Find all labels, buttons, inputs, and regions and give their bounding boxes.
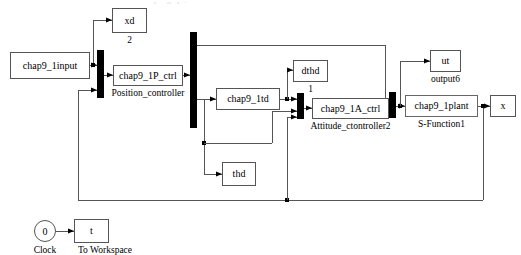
block-ut-scope[interactable]: ut <box>430 50 461 72</box>
block-x-scope[interactable]: x <box>490 95 516 117</box>
wire-junction <box>481 104 485 108</box>
mux-bar-attitude-input[interactable] <box>297 93 304 119</box>
block-xd-scope[interactable]: xd <box>112 8 147 33</box>
block-chap9-1P-ctrl[interactable]: chap9_1P_ctrl <box>113 65 183 86</box>
block-chap9-1plant[interactable]: chap9_1plant <box>405 95 478 117</box>
caption-clock: Clock <box>22 246 68 255</box>
block-clock[interactable]: 0 <box>34 220 56 242</box>
mux-bar-position-input[interactable] <box>97 50 104 98</box>
block-chap9-1A-ctrl[interactable]: chap9_1A_ctrl <box>312 98 389 119</box>
block-chap9-1input[interactable]: chap9_1input <box>10 52 90 79</box>
block-thd-scope[interactable]: thd <box>222 162 256 186</box>
wire-junction <box>91 63 95 67</box>
simulink-model-canvas: chap9_1sim <box>0 0 521 255</box>
caption-xd: 2 <box>112 36 147 46</box>
block-chap9-1td[interactable]: chap9_1td <box>216 88 280 110</box>
caption-position-controller: Position_controller <box>95 89 201 99</box>
caption-attitude-controller: Attitude_ctontroller2 <box>294 122 407 132</box>
caption-output6: output6 <box>415 75 476 85</box>
caption-to-workspace: To Workspace <box>62 246 148 255</box>
block-to-workspace[interactable]: t <box>74 219 109 243</box>
demux-bar-position-output[interactable] <box>190 32 197 128</box>
block-dthd-scope[interactable]: dthd <box>293 60 328 82</box>
mux-bar-plant-input[interactable] <box>389 92 396 118</box>
caption-s-function1: S-Function1 <box>405 120 478 130</box>
wire-to-thd <box>204 143 222 174</box>
